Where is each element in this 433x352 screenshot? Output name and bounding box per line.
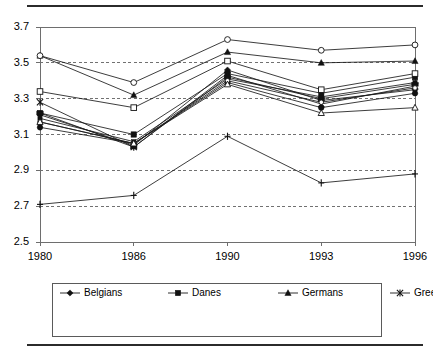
data-point-marker — [37, 89, 43, 95]
data-point-marker — [225, 133, 231, 140]
legend-item-belgians[interactable]: Belgians — [59, 287, 167, 299]
data-point-marker — [131, 192, 137, 199]
data-point-marker — [413, 86, 418, 91]
y-axis-tick-label: 2.5 — [3, 235, 29, 247]
legend-item-label: Germans — [302, 287, 343, 299]
data-point-marker — [131, 105, 137, 111]
data-point-marker — [412, 104, 418, 110]
cross-star-icon — [389, 287, 411, 299]
y-axis-tick-label: 3.3 — [3, 92, 29, 104]
data-point-marker — [318, 179, 324, 186]
data-point-marker — [131, 92, 137, 98]
filled-diamond-icon — [59, 287, 81, 299]
data-point-marker — [412, 42, 418, 48]
bottom-horizontal-rule — [27, 344, 423, 346]
plot-area — [0, 12, 433, 267]
data-point-marker — [175, 290, 180, 295]
data-point-marker — [412, 58, 418, 64]
y-axis-tick-label: 3.5 — [3, 56, 29, 68]
y-axis-tick-label: 3.7 — [3, 20, 29, 32]
data-point-marker — [318, 47, 324, 53]
data-point-marker — [67, 290, 73, 296]
data-point-marker — [37, 201, 43, 208]
top-horizontal-rule — [27, 5, 423, 7]
legend-item-germans[interactable]: Germans — [277, 287, 389, 299]
x-axis-tick-label: 1986 — [109, 250, 159, 262]
y-axis-tick-label: 2.7 — [3, 199, 29, 211]
y-axis-tick-label: 3.1 — [3, 128, 29, 140]
chart-figure: 2.52.72.93.13.33.53.7 198019861990199319… — [0, 0, 433, 352]
data-point-marker — [131, 132, 136, 137]
legend-item-label: Belgians — [84, 287, 122, 299]
data-point-marker — [318, 87, 324, 93]
data-point-marker — [37, 99, 43, 106]
line-chart-svg — [0, 12, 433, 267]
filled-square-icon — [167, 287, 189, 299]
legend-item-danes[interactable]: Danes — [167, 287, 277, 299]
data-point-marker — [37, 125, 43, 131]
x-axis-tick-label: 1996 — [390, 250, 433, 262]
legend-item-label: Danes — [192, 287, 221, 299]
filled-triangle-icon — [277, 287, 299, 299]
data-point-marker — [319, 100, 324, 105]
x-axis-tick-label: 1990 — [203, 250, 253, 262]
legend-item-greeks[interactable]: Greeks — [389, 287, 433, 299]
data-point-marker — [37, 53, 43, 59]
x-axis-tick-label: 1993 — [296, 250, 346, 262]
series-line — [40, 79, 415, 142]
x-axis-tick-label: 1980 — [15, 250, 65, 262]
data-point-marker — [412, 170, 418, 177]
legend-item-label: Greeks — [414, 287, 433, 299]
data-point-marker — [224, 49, 230, 55]
data-point-marker — [225, 58, 231, 64]
data-point-marker — [131, 80, 137, 86]
chart-legend: BelgiansDanesGermansGreeksSpanishFrenchI… — [52, 283, 382, 337]
data-point-marker — [412, 71, 418, 77]
y-axis-tick-label: 2.9 — [3, 163, 29, 175]
data-point-marker — [412, 90, 418, 96]
data-point-marker — [225, 37, 231, 43]
data-point-marker — [37, 111, 43, 115]
legend-grid: BelgiansDanesGermansGreeksSpanishFrenchI… — [53, 284, 381, 299]
